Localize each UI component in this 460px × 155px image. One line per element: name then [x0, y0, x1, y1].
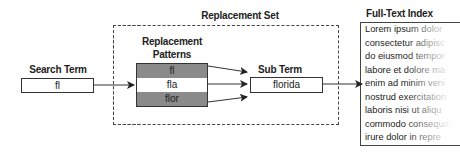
- arrow-pattern-3-to-subterm: [208, 97, 247, 102]
- arrow-pattern-1-to-subterm: [208, 66, 247, 72]
